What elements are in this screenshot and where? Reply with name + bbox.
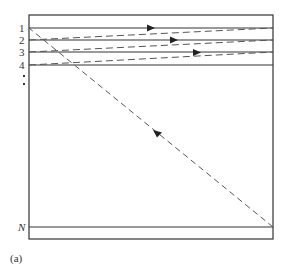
arrow-up-left-icon: [153, 130, 162, 138]
arrow-right-icon: [193, 49, 201, 56]
ellipsis-dot: [23, 83, 25, 85]
row-label-n: N: [17, 221, 26, 233]
panel-label: (a): [10, 252, 23, 265]
retrace-line-3-2: [29, 40, 273, 52]
retrace-line-4-3: [29, 52, 273, 65]
row-label-2: 2: [19, 34, 25, 46]
arrow-right-icon: [147, 25, 155, 32]
arrow-right-icon: [170, 37, 178, 44]
row-label-3: 3: [19, 46, 25, 58]
row-label-4: 4: [19, 59, 25, 71]
frame-box: [29, 15, 273, 239]
ellipsis-dot: [23, 75, 25, 77]
raster-scan-diagram: 1 2 3 4 N (a): [0, 0, 289, 270]
vertical-retrace-diagonal: [29, 28, 273, 227]
row-label-1: 1: [19, 22, 25, 34]
retrace-line-2-1: [29, 28, 273, 40]
